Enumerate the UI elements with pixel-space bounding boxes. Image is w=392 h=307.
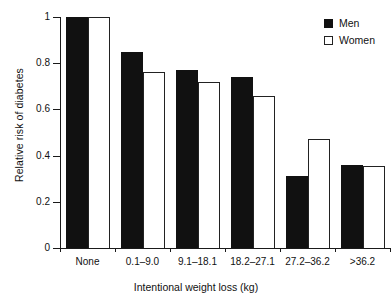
x-axis-tick <box>335 248 336 252</box>
x-axis-category-label: None <box>76 256 100 268</box>
y-axis-title: Relative risk of diabetes <box>13 30 25 220</box>
bar-men <box>231 77 253 248</box>
x-axis-category-label: 9.1–18.1 <box>178 256 217 268</box>
y-axis-tick-label: 1 <box>44 12 50 22</box>
legend-label-men: Men <box>339 18 359 28</box>
bar-men <box>121 52 143 248</box>
bar-men <box>286 176 308 248</box>
x-axis-category-label: 18.2–27.1 <box>230 256 275 268</box>
x-axis-category-label: 27.2–36.2 <box>285 256 330 268</box>
plot-area <box>60 17 390 248</box>
y-axis-tick-label: 0 <box>44 243 50 253</box>
bar-women <box>308 139 330 248</box>
y-axis-tick-label: 0.8 <box>36 58 50 68</box>
x-axis-tick <box>390 248 391 252</box>
y-axis-tick <box>53 248 60 249</box>
y-axis-tick <box>53 202 60 203</box>
bar-women <box>363 166 385 248</box>
bar-men <box>176 70 198 248</box>
chart-figure: 00.20.40.60.81 Relative risk of diabetes… <box>0 0 392 307</box>
bar-group <box>115 17 170 248</box>
bar-women <box>198 82 220 248</box>
bar-women <box>253 96 275 248</box>
bar-group <box>170 17 225 248</box>
legend-item-women: Women <box>324 35 375 45</box>
bar-group <box>60 17 115 248</box>
bar-groups <box>60 17 390 248</box>
bar-group <box>280 17 335 248</box>
bar-men <box>341 165 363 248</box>
y-axis-tick <box>53 63 60 64</box>
legend-label-women: Women <box>339 35 375 45</box>
x-axis-title: Intentional weight loss (kg) <box>0 281 392 293</box>
y-axis-tick-label: 0.6 <box>36 104 50 114</box>
legend-swatch-women-icon <box>324 36 333 45</box>
chart-legend: Men Women <box>324 18 375 45</box>
x-axis-category-label: >36.2 <box>350 256 375 268</box>
bar-women <box>143 72 165 248</box>
y-axis-tick <box>53 156 60 157</box>
y-axis-tick <box>53 109 60 110</box>
bar-men <box>66 17 88 248</box>
x-axis-tick <box>170 248 171 252</box>
x-axis-tick <box>225 248 226 252</box>
legend-item-men: Men <box>324 18 375 28</box>
x-axis-category-label: 0.1–9.0 <box>126 256 159 268</box>
bar-group <box>225 17 280 248</box>
y-axis-tick-label: 0.2 <box>36 197 50 207</box>
y-axis-tick-label: 0.4 <box>36 151 50 161</box>
legend-swatch-men-icon <box>324 19 333 28</box>
bar-women <box>88 17 110 248</box>
y-axis-tick <box>53 17 60 18</box>
y-axis-tick-labels: 00.20.40.60.81 <box>0 0 50 307</box>
x-axis-tick <box>280 248 281 252</box>
x-axis-tick <box>60 248 61 252</box>
x-axis-tick <box>115 248 116 252</box>
bar-group <box>335 17 390 248</box>
